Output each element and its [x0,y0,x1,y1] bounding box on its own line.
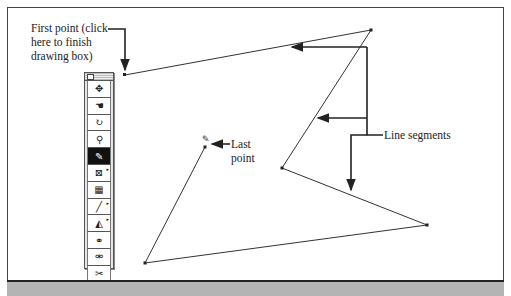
last-point-label: Last point [231,137,255,165]
link-icon: ⚭ [95,235,103,246]
pencil-cursor-icon: ✎ [202,134,210,144]
first-point-handle [123,73,126,76]
unlink-icon: ⚮ [95,251,103,262]
caption-band [7,280,504,296]
tool-draw-box[interactable]: ✎ [87,148,111,165]
image-frame-icon: ⊠ [95,167,103,178]
polygon-path [125,30,427,263]
tool-grab[interactable]: ☚ [87,98,111,115]
rotate-icon: ↻ [95,117,103,128]
polygon-icon: ◭ [95,218,103,229]
tool-table[interactable]: ▦ [87,182,111,199]
tool-move[interactable]: ✥ [87,81,111,98]
first-point-label: First point (click here to finish drawin… [31,21,108,63]
close-box-icon[interactable] [87,74,94,80]
toolbox-palette[interactable]: ✥ ☚ ↻ ⚲ ✎ ⊠▸ ▦ ╱▸ ◭▸ ⚭ ⚮ ✂ [84,72,114,269]
tool-unlink[interactable]: ⚮ [87,249,111,266]
tool-polygon[interactable]: ◭▸ [87,215,111,232]
table-icon: ▦ [94,184,103,195]
tool-link[interactable]: ⚭ [87,232,111,249]
pencil-icon: ✎ [95,151,103,162]
toolbox-titlebar[interactable] [85,73,113,81]
line-icon: ╱ [96,201,102,212]
tool-line[interactable]: ╱▸ [87,199,111,216]
line-segments-label: Line segments [384,128,451,142]
scissors-icon: ✂ [95,268,103,279]
magnifier-icon: ⚲ [96,134,103,145]
move-icon: ✥ [95,83,103,94]
tool-image[interactable]: ⊠▸ [87,165,111,182]
tool-zoom[interactable]: ⚲ [87,131,111,148]
last-point-handle [204,146,207,149]
tool-rotate[interactable]: ↻ [87,115,111,132]
hand-icon: ☚ [95,100,104,111]
